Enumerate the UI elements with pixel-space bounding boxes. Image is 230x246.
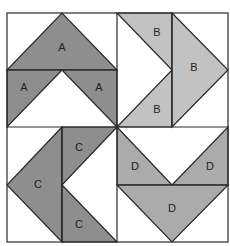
piece-label: C [34, 178, 42, 190]
piece-label: A [58, 41, 66, 53]
piece-label: D [131, 160, 139, 172]
piece-label: D [168, 202, 176, 214]
piece-label: B [153, 26, 160, 38]
piece-label: A [95, 81, 103, 93]
piece-label: D [206, 160, 214, 172]
piece-label: C [75, 218, 83, 230]
piece-label: B [153, 103, 160, 115]
piece-label: A [20, 81, 28, 93]
piece-label: B [190, 61, 197, 73]
piece-label: C [75, 141, 83, 153]
quilt-diagram: AAABBBCCCDDD [0, 0, 230, 246]
